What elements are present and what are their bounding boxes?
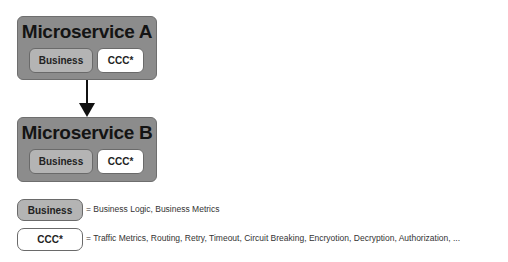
microservice-a-title: Microservice A	[18, 21, 156, 43]
microservice-b-business-component: Business	[29, 149, 93, 174]
legend-ccc-description: = Traffic Metrics, Routing, Retry, Timeo…	[86, 233, 460, 243]
arrow-a-to-b-line	[86, 80, 88, 104]
arrow-down-icon	[79, 103, 95, 117]
microservice-a-business-component: Business	[29, 48, 93, 73]
microservice-b-ccc-component: CCC*	[97, 149, 144, 174]
legend-business-key: Business	[17, 199, 83, 221]
legend-ccc-key: CCC*	[17, 228, 83, 251]
legend-business-description: = Business Logic, Business Metrics	[86, 204, 219, 214]
microservice-a-box: Microservice A Business CCC*	[17, 16, 157, 80]
microservice-b-title: Microservice B	[18, 122, 156, 144]
microservice-a-ccc-component: CCC*	[97, 48, 144, 73]
microservice-b-box: Microservice B Business CCC*	[17, 117, 157, 182]
